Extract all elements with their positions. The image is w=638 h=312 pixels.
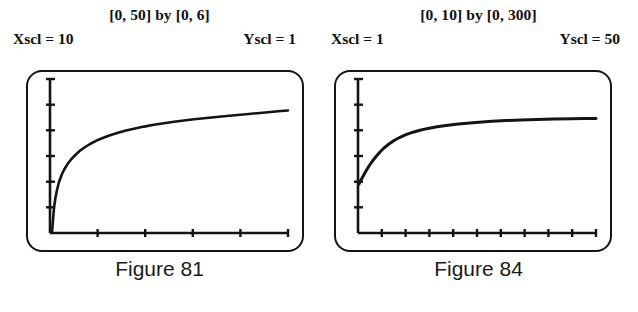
curve-logarithmic	[52, 111, 288, 234]
plot-area	[26, 70, 304, 252]
graph-svg	[26, 70, 304, 252]
figure-caption: Figure 81	[0, 258, 333, 279]
yscl-label: Yscl = 50	[560, 31, 621, 47]
scale-row: Xscl = 10 Yscl = 1	[0, 23, 319, 47]
xscl-label: Xscl = 10	[13, 31, 74, 47]
graph-svg	[334, 70, 612, 252]
figures-row: [0, 50] by [0, 6] Xscl = 10 Yscl = 1	[0, 0, 638, 312]
calculator-screen	[334, 70, 612, 252]
figure-panel-81: [0, 50] by [0, 6] Xscl = 10 Yscl = 1	[0, 0, 319, 312]
figure-caption: Figure 84	[319, 258, 638, 279]
curve-saturating-growth	[359, 118, 596, 184]
plot-area	[334, 70, 612, 252]
calculator-screen	[26, 70, 304, 252]
range-header: [0, 10] by [0, 300]	[319, 0, 638, 23]
figure-panel-84: [0, 10] by [0, 300] Xscl = 1 Yscl = 50	[319, 0, 638, 312]
xscl-label: Xscl = 1	[331, 31, 384, 47]
range-header: [0, 50] by [0, 6]	[0, 0, 319, 23]
yscl-label: Yscl = 1	[243, 31, 296, 47]
scale-row: Xscl = 1 Yscl = 50	[319, 23, 638, 47]
